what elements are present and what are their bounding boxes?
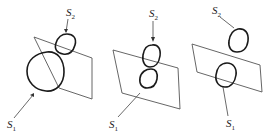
- surface-s2-loop: [55, 34, 75, 54]
- arrowhead-icon: [64, 29, 68, 33]
- s1-pointer-arrow: [118, 93, 140, 117]
- panel-2: S2 S1: [109, 7, 180, 133]
- surfaces-diagram: S2 S1 S2 S1 S2 S1: [0, 0, 270, 138]
- surface-s1-loop: [140, 69, 157, 88]
- s1-pointer-line: [223, 87, 228, 116]
- surface-s2-loop: [229, 29, 248, 52]
- label-s2: S2: [212, 4, 222, 19]
- s2-pointer-line: [220, 17, 234, 28]
- panel-3: S2 S1: [192, 4, 262, 132]
- label-s1: S1: [226, 117, 236, 132]
- surface-s1-loop: [216, 63, 236, 87]
- panel-1: S2 S1: [7, 6, 92, 133]
- surface-s1-loop: [27, 52, 64, 91]
- label-s1: S1: [7, 118, 17, 133]
- s1-pointer-arrow: [14, 95, 33, 118]
- plane: [113, 50, 180, 109]
- plane: [192, 44, 262, 92]
- surface-s2-loop: [143, 45, 160, 67]
- label-s2: S2: [149, 7, 159, 22]
- label-s1: S1: [109, 118, 119, 133]
- arrowhead-icon: [151, 37, 155, 42]
- label-s2: S2: [66, 6, 76, 21]
